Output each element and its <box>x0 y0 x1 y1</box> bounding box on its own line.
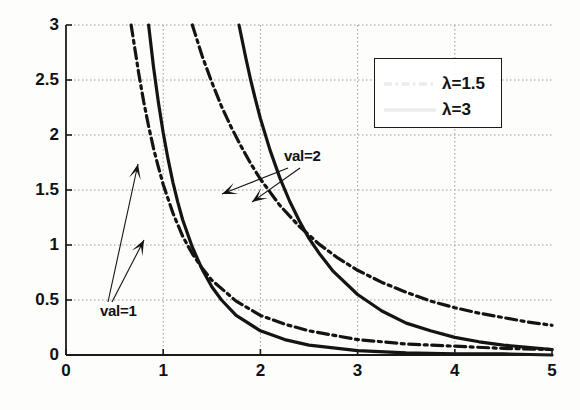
y-tick-label: 0 <box>50 345 59 365</box>
x-tick-label: 1 <box>158 361 167 381</box>
legend-label-lambda-1-5: λ=1.5 <box>442 74 485 94</box>
y-tick-label: 1.5 <box>35 180 59 200</box>
annotation-label-val-1: val=1 <box>100 302 136 319</box>
annotation-label-val-2: val=2 <box>284 147 320 164</box>
annotation-arrows-group <box>108 164 300 302</box>
y-tick-label: 0.5 <box>35 290 59 310</box>
y-tick-label: 2.5 <box>35 70 59 90</box>
x-tick-label: 4 <box>450 361 459 381</box>
legend-label-lambda-3: λ=3 <box>442 100 471 120</box>
y-tick-label: 1 <box>50 235 59 255</box>
arrow-val1-to-solid <box>112 240 144 302</box>
chart-figure-root: 00.511.522.53 012345 λ=1.5 λ=3 val=1 val… <box>0 0 580 410</box>
x-tick-label: 5 <box>547 361 556 381</box>
y-tick-label: 2 <box>50 125 59 145</box>
x-tick-label: 0 <box>61 361 70 381</box>
x-tick-label: 3 <box>353 361 362 381</box>
x-tick-label: 2 <box>256 361 265 381</box>
arrow-val1-to-dashdot <box>108 164 141 302</box>
y-tick-label: 3 <box>50 15 59 35</box>
